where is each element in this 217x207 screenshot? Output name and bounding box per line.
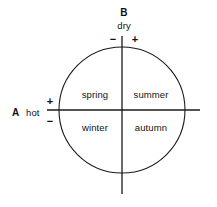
vertical-axis-term: dry	[117, 21, 131, 31]
quadrant-label-lower-right: autumn	[135, 123, 167, 133]
horizontal-axis-term: hot	[26, 108, 40, 118]
horizontal-axis-name: A	[12, 108, 19, 118]
diagram-canvas	[0, 0, 217, 207]
horizontal-axis-positive-sign: +	[47, 96, 53, 107]
vertical-axis-name: B	[120, 8, 127, 18]
quadrant-label-upper-right: summer	[134, 90, 169, 100]
vertical-axis-negative-sign: −	[110, 34, 116, 45]
quadrant-label-lower-left: winter	[82, 123, 108, 133]
horizontal-axis-negative-sign: −	[47, 116, 53, 127]
quadrant-label-upper-left: spring	[82, 90, 108, 100]
vertical-axis-positive-sign: +	[132, 34, 138, 45]
quadrant-diagram: B dry − + A hot + − spring summer winter…	[0, 0, 217, 207]
